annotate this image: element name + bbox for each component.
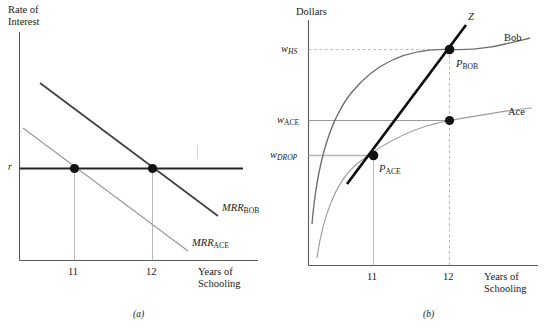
figure-container: Rate of Interest r 11 12 Years of School… <box>0 0 558 336</box>
panel-b-ytick-whs: wHS <box>281 43 297 55</box>
panel-b-point-ace-at-12 <box>445 116 454 125</box>
panel-b-ytick-wace-main: w <box>277 114 284 125</box>
panel-b-x-axis-title-line2: Schooling <box>484 283 527 295</box>
panel-a-x-axis-title-line2: Schooling <box>198 278 241 290</box>
panel-b-point-pace-label-sub: ACE <box>385 167 400 176</box>
panel-a-xtick-12: 12 <box>146 266 157 278</box>
panel-b-ytick-wdrop: wDROP <box>270 149 297 161</box>
panel-b-ytick-wace: wACE <box>277 114 299 126</box>
panel-b-z-label: Z <box>468 11 474 23</box>
figure-graphics <box>0 0 558 336</box>
panel-b-bob-curve <box>312 38 530 224</box>
panel-a-caption: (a) <box>133 309 144 320</box>
panel-a-y-axis-title: Rate of Interest <box>8 4 40 28</box>
panel-b-point-pace <box>369 151 379 161</box>
panel-b-point-pace-label: PACE <box>379 163 401 175</box>
panel-b-ytick-wdrop-sub: DROP <box>277 153 297 162</box>
panel-b-xtick-11: 11 <box>367 271 377 283</box>
panel-b-ytick-whs-sub: HS <box>288 47 297 56</box>
panel-a-mrr-bob-label: MRRBOB <box>222 202 259 214</box>
panel-a-interest-rate-label: r <box>8 162 12 173</box>
panel-b-ytick-whs-main: w <box>281 43 288 54</box>
panel-a-x-axis-title-line1: Years of <box>198 266 241 278</box>
panel-a-mrr-ace-curve <box>23 128 188 251</box>
panel-a-point-bob <box>148 164 157 173</box>
panel-b-caption: (b) <box>423 309 434 320</box>
panel-a-y-axis-title-line2: Interest <box>8 16 40 28</box>
panel-a-mrr-bob-label-sub: BOB <box>244 206 260 215</box>
panel-a-x-axis-title: Years of Schooling <box>198 266 241 290</box>
panel-a-point-ace <box>70 164 79 173</box>
panel-b-graphics <box>309 20 539 266</box>
panel-b-point-pbob-label: PBOB <box>456 58 478 70</box>
panel-a-xtick-11: 11 <box>68 266 78 278</box>
panel-a-mrr-bob-label-main: MRR <box>222 202 244 213</box>
panel-b-ytick-wace-sub: ACE <box>284 118 299 127</box>
panel-b-ace-label: Ace <box>508 106 525 118</box>
panel-a-mrr-bob-curve <box>40 83 218 216</box>
panel-a-y-axis-title-line1: Rate of <box>8 4 40 16</box>
panel-b-point-pbob-label-sub: BOB <box>462 62 478 71</box>
panel-b-point-pbob <box>445 45 455 55</box>
panel-b-ytick-wdrop-main: w <box>270 149 277 160</box>
panel-b-bob-label: Bob <box>504 32 522 44</box>
panel-b-x-axis-title-line1: Years of <box>484 271 527 283</box>
panel-a-graphics <box>20 32 259 261</box>
panel-b-x-axis-title: Years of Schooling <box>484 271 527 295</box>
panel-b-xtick-12: 12 <box>443 271 454 283</box>
panel-a-mrr-ace-label-sub: ACE <box>214 241 229 250</box>
panel-a-mrr-ace-label-main: MRR <box>192 237 214 248</box>
panel-a-mrr-ace-label: MRRACE <box>192 237 229 249</box>
panel-b-y-axis-title: Dollars <box>296 6 327 18</box>
